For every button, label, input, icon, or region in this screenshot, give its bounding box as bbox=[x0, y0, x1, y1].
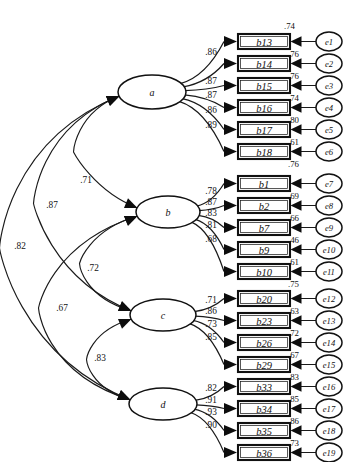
loading-arrowhead-b16 bbox=[224, 102, 237, 113]
error-arrowhead-e9 bbox=[291, 222, 302, 232]
indicator-label-b29: b29 bbox=[256, 360, 273, 371]
indicator-label-b16: b16 bbox=[256, 103, 273, 114]
error-label-e18: e18 bbox=[323, 426, 336, 436]
residual-label-b29: .83 bbox=[288, 372, 300, 382]
residual-label-b15: .74 bbox=[288, 93, 300, 103]
loading-arrowhead-b20 bbox=[224, 293, 237, 304]
indicator-label-b2: b2 bbox=[259, 201, 270, 212]
loading-arrowhead-b33 bbox=[224, 381, 237, 392]
correlation-arrowhead-a-d-from bbox=[106, 96, 120, 106]
loading-arrowhead-b26 bbox=[224, 337, 237, 348]
loading-arrowhead-b2 bbox=[224, 200, 237, 211]
loading-label-b2: .87 bbox=[205, 197, 217, 207]
loading-label-b15: .87 bbox=[205, 76, 217, 86]
error-label-e16: e16 bbox=[323, 382, 336, 392]
correlation-arrowhead-c-d-from bbox=[118, 319, 132, 329]
loading-arrowhead-b34 bbox=[224, 403, 237, 414]
correlation-arrowhead-b-d-from bbox=[124, 216, 138, 226]
error-arrowhead-e2 bbox=[291, 58, 302, 68]
residual-label-b18: .76 bbox=[288, 159, 300, 169]
error-arrowhead-e7 bbox=[291, 178, 302, 188]
indicator-label-b34: b34 bbox=[256, 404, 273, 415]
residual-label-b33: .85 bbox=[288, 394, 300, 404]
loading-arrowhead-b23 bbox=[224, 315, 237, 326]
error-arrowhead-e19 bbox=[291, 447, 302, 457]
error-arrowhead-e3 bbox=[291, 80, 302, 90]
indicator-label-b13: b13 bbox=[256, 37, 272, 48]
residual-label-b20: .63 bbox=[288, 306, 300, 316]
loading-label-b18: .89 bbox=[205, 120, 217, 130]
factor-label-a: a bbox=[150, 87, 155, 98]
indicator-label-b15: b15 bbox=[256, 81, 272, 92]
loading-arrowhead-b7 bbox=[224, 222, 237, 233]
correlation-arrowhead-b-c-to bbox=[118, 301, 132, 311]
diagram-canvas: b13b14b15b16b17b18b1b2b7b9b10b20b23b26b2… bbox=[0, 0, 354, 462]
loading-label-b36: .90 bbox=[205, 420, 217, 430]
indicator-label-b10: b10 bbox=[256, 267, 273, 278]
loading-label-b35: .93 bbox=[205, 407, 217, 417]
error-label-e15: e15 bbox=[323, 360, 336, 370]
error-arrowhead-e8 bbox=[291, 200, 302, 210]
error-label-e2: e2 bbox=[325, 59, 334, 69]
loading-arrowhead-b13 bbox=[224, 36, 237, 47]
correlation-label-b-c: .72 bbox=[87, 263, 99, 273]
loading-label-b34: .91 bbox=[205, 395, 217, 405]
error-label-e3: e3 bbox=[325, 81, 333, 91]
error-arrowhead-e4 bbox=[291, 102, 302, 112]
indicator-label-b1: b1 bbox=[259, 179, 270, 190]
indicator-label-b7: b7 bbox=[259, 223, 270, 234]
error-label-e5: e5 bbox=[325, 125, 334, 135]
error-arrowhead-e16 bbox=[291, 381, 302, 391]
loading-arrowhead-b36 bbox=[224, 447, 237, 458]
loading-path-a-b18 bbox=[179, 101, 224, 151]
indicator-label-b18: b18 bbox=[256, 147, 273, 158]
error-label-e4: e4 bbox=[325, 103, 334, 113]
loading-arrowhead-b1 bbox=[224, 178, 237, 189]
indicator-label-b9: b9 bbox=[259, 245, 270, 256]
error-arrowhead-e14 bbox=[291, 337, 302, 347]
loading-arrowhead-b35 bbox=[224, 425, 237, 436]
error-label-e10: e10 bbox=[323, 245, 336, 255]
loading-path-c-b29 bbox=[190, 324, 224, 365]
indicator-label-b33: b33 bbox=[256, 382, 272, 393]
residual-label-b16: .80 bbox=[288, 115, 300, 125]
loading-arrowhead-b29 bbox=[224, 359, 237, 370]
factor-label-c: c bbox=[161, 310, 166, 321]
error-arrowhead-e6 bbox=[291, 146, 302, 156]
error-label-e12: e12 bbox=[323, 294, 336, 304]
loading-label-b20: .71 bbox=[205, 295, 217, 305]
error-arrowhead-e13 bbox=[291, 315, 302, 325]
error-circles: e1e2e3e4e5e6e7e8e9e10e11e12e13e14e15e16e… bbox=[316, 32, 342, 462]
error-label-e19: e19 bbox=[323, 448, 336, 458]
correlation-curve-a-b bbox=[74, 96, 138, 208]
loading-label-b17: .86 bbox=[205, 105, 217, 115]
indicator-label-b20: b20 bbox=[256, 294, 273, 305]
loading-label-b13: .86 bbox=[205, 47, 217, 57]
error-arrowhead-e11 bbox=[291, 266, 302, 276]
indicator-label-b14: b14 bbox=[256, 59, 273, 70]
loading-arrowhead-b17 bbox=[224, 124, 237, 135]
correlation-arrowhead-c-d-to bbox=[117, 390, 131, 400]
loading-arrowhead-b18 bbox=[224, 146, 237, 157]
loading-path-d-b36 bbox=[191, 413, 224, 453]
error-arrowhead-e12 bbox=[291, 293, 302, 303]
latent-factor-ellipses: abcd bbox=[118, 75, 200, 420]
loading-arrowhead-b10 bbox=[224, 266, 237, 277]
loading-arrowhead-b15 bbox=[224, 80, 237, 91]
loading-label-b9: .81 bbox=[205, 220, 217, 230]
loading-label-b1: .78 bbox=[205, 186, 217, 196]
residual-label-b2: .66 bbox=[288, 213, 300, 223]
correlation-label-a-b: .71 bbox=[80, 175, 92, 185]
indicator-label-b35: b35 bbox=[256, 426, 272, 437]
residual-label-b17: .61 bbox=[288, 137, 299, 147]
loading-path-a-b13 bbox=[180, 42, 224, 84]
loading-label-b7: .83 bbox=[205, 208, 217, 218]
indicator-boxes: b13b14b15b16b17b18b1b2b7b9b10b20b23b26b2… bbox=[238, 34, 290, 460]
cfa-path-diagram: b13b14b15b16b17b18b1b2b7b9b10b20b23b26b2… bbox=[0, 0, 354, 462]
error-arrowhead-e15 bbox=[291, 359, 302, 369]
indicator-label-b36: b36 bbox=[256, 448, 273, 459]
indicator-label-b23: b23 bbox=[256, 316, 272, 327]
residual-label-b14: .76 bbox=[288, 71, 300, 81]
loading-label-b26: .73 bbox=[205, 319, 217, 329]
error-label-e9: e9 bbox=[325, 223, 334, 233]
